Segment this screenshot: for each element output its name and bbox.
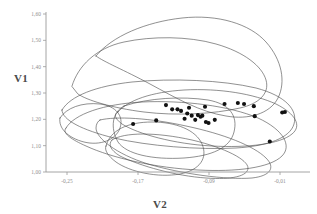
x-tick-label: -0,09 (203, 178, 215, 184)
data-point (200, 114, 204, 118)
data-point (175, 107, 179, 111)
x-tick-label: -0,01 (274, 178, 286, 184)
data-point (242, 102, 246, 106)
contour-lower-tail (96, 118, 271, 178)
y-tick-label: 1,50 (31, 37, 41, 43)
x-tick-label: -0,17 (132, 178, 144, 184)
data-point (283, 110, 287, 114)
data-point (187, 106, 191, 110)
data-point (203, 105, 207, 109)
data-point (253, 114, 257, 118)
data-point (164, 103, 168, 107)
scatter-plot-figure: 1,001,101,201,301,401,501,60-0,25-0,17-0… (0, 0, 317, 214)
contour-upper-crest (96, 17, 282, 117)
x-axis-title: V2 (153, 198, 167, 210)
data-point (185, 111, 189, 115)
axes-group (46, 12, 310, 172)
y-tick-label: 1,30 (31, 90, 41, 96)
data-point (131, 122, 135, 126)
data-point (213, 118, 217, 122)
y-tick-label: 1,00 (31, 169, 41, 175)
data-point (252, 104, 256, 108)
data-point (193, 118, 197, 122)
x-tick-label: -0,25 (61, 178, 73, 184)
contour-inner-upper-band (115, 90, 296, 147)
contour-mid-lens (65, 102, 286, 171)
data-point (207, 121, 211, 125)
data-point (154, 118, 158, 122)
contour-group (60, 17, 297, 178)
data-point (190, 114, 194, 118)
contour-inner-box (113, 98, 235, 158)
data-point (179, 109, 183, 113)
data-point (236, 101, 240, 105)
plot-svg: 1,001,101,201,301,401,501,60-0,25-0,17-0… (0, 0, 317, 214)
contour-lower-left-lobe (105, 122, 203, 175)
y-tick-label: 1,10 (31, 143, 41, 149)
y-tick-label: 1,40 (31, 64, 41, 70)
data-point (222, 102, 226, 106)
y-tick-label: 1,20 (31, 116, 41, 122)
data-point (183, 117, 187, 121)
data-point (170, 107, 174, 111)
y-axis-title: V1 (14, 72, 28, 84)
y-tick-label: 1,60 (31, 11, 41, 17)
data-point (268, 139, 272, 143)
